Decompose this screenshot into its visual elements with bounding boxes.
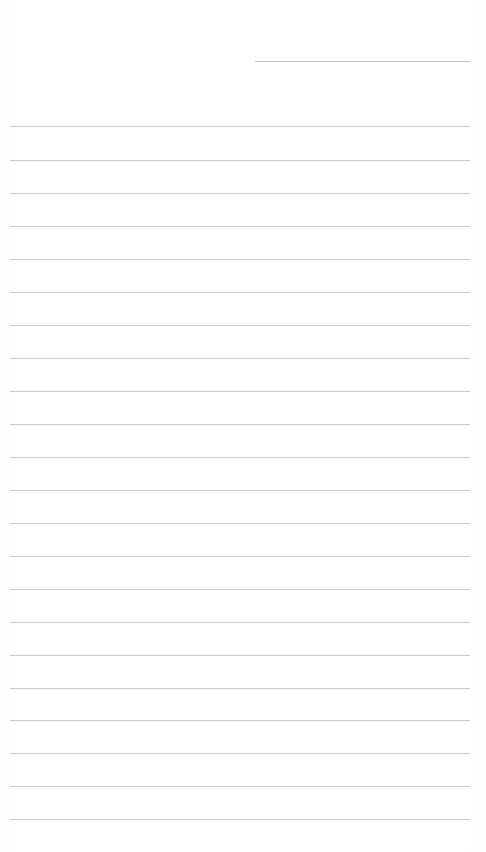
body-rule-1[interactable] (10, 126, 470, 127)
body-rule-16[interactable] (10, 622, 470, 623)
body-rule-4[interactable] (10, 226, 470, 227)
body-rule-17[interactable] (10, 655, 470, 656)
body-rule-19[interactable] (10, 720, 470, 721)
body-rule-20[interactable] (10, 753, 470, 754)
header-rule[interactable] (255, 61, 470, 62)
body-rule-8[interactable] (10, 358, 470, 359)
body-rule-11[interactable] (10, 457, 470, 458)
body-rule-18[interactable] (10, 688, 470, 689)
body-rule-21[interactable] (10, 786, 470, 787)
paper-edge-vignette (0, 0, 486, 852)
body-rule-3[interactable] (10, 193, 470, 194)
body-rule-22[interactable] (10, 819, 470, 820)
body-rule-10[interactable] (10, 424, 470, 425)
body-rule-15[interactable] (10, 589, 470, 590)
body-rule-14[interactable] (10, 556, 470, 557)
body-rule-12[interactable] (10, 490, 470, 491)
body-rule-5[interactable] (10, 259, 470, 260)
lined-paper-page (0, 0, 486, 852)
body-rule-2[interactable] (10, 160, 470, 161)
body-rule-9[interactable] (10, 391, 470, 392)
body-rule-6[interactable] (10, 292, 470, 293)
body-rule-7[interactable] (10, 325, 470, 326)
body-rule-13[interactable] (10, 523, 470, 524)
